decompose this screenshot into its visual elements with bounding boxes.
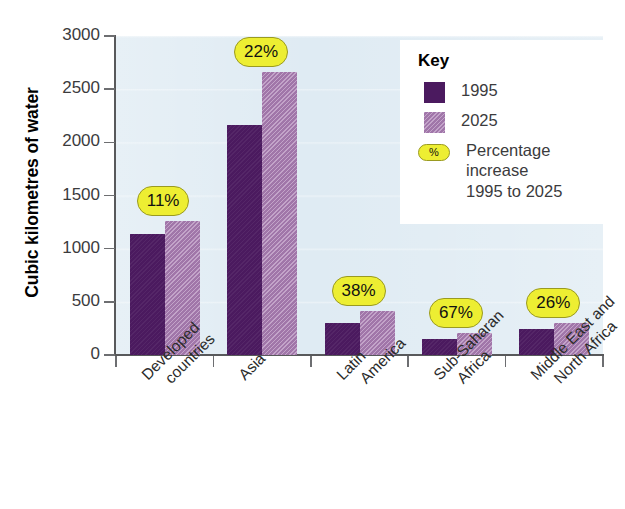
legend-percent-line2: increase bbox=[466, 160, 562, 180]
legend-swatch-1995 bbox=[424, 82, 445, 103]
x-tick bbox=[213, 356, 215, 367]
y-tick bbox=[104, 248, 115, 250]
x-tick bbox=[602, 356, 604, 367]
bar-2025-2 bbox=[262, 72, 297, 355]
x-tick bbox=[115, 356, 117, 367]
legend-item-percent: % Percentage increase 1995 to 2025 bbox=[418, 140, 606, 201]
y-tick bbox=[104, 354, 115, 356]
y-tick bbox=[104, 195, 115, 197]
y-tick-label: 1000 bbox=[34, 238, 100, 258]
percent-badge-3: 38% bbox=[332, 276, 386, 306]
legend-percent-line3: 1995 to 2025 bbox=[466, 181, 562, 201]
legend-percent-line1: Percentage bbox=[466, 140, 562, 160]
y-tick bbox=[104, 142, 115, 144]
bar-chart: Cubic kilometres of water 05001000150020… bbox=[0, 0, 625, 509]
y-tick-label: 2000 bbox=[34, 131, 100, 151]
legend-label-2025: 2025 bbox=[461, 110, 498, 130]
y-tick-label: 0 bbox=[34, 344, 100, 364]
legend-item-1995: 1995 bbox=[418, 80, 606, 103]
bar-1995-1 bbox=[130, 234, 165, 355]
percent-badge-4: 67% bbox=[429, 298, 483, 328]
y-tick-label: 2500 bbox=[34, 78, 100, 98]
y-tick bbox=[104, 88, 115, 90]
percent-badge-5: 26% bbox=[526, 288, 580, 318]
x-tick bbox=[407, 356, 409, 367]
y-tick bbox=[104, 301, 115, 303]
y-tick-label: 500 bbox=[34, 291, 100, 311]
y-tick-label: 1500 bbox=[34, 185, 100, 205]
bar-1995-2 bbox=[227, 125, 262, 355]
x-tick bbox=[310, 356, 312, 367]
legend: Key 1995 2025 % Percentage increase 1995… bbox=[400, 40, 606, 224]
x-tick bbox=[505, 356, 507, 367]
legend-item-2025: 2025 bbox=[418, 110, 606, 133]
y-tick-label: 3000 bbox=[34, 25, 100, 45]
legend-title: Key bbox=[418, 51, 606, 71]
percent-badge-icon: % bbox=[418, 144, 450, 161]
percent-badge-1: 11% bbox=[137, 186, 190, 216]
y-tick bbox=[104, 35, 115, 37]
percent-badge-2: 22% bbox=[234, 37, 288, 67]
legend-swatch-2025 bbox=[424, 112, 445, 133]
legend-label-1995: 1995 bbox=[461, 80, 498, 100]
legend-label-percent: Percentage increase 1995 to 2025 bbox=[466, 140, 562, 201]
